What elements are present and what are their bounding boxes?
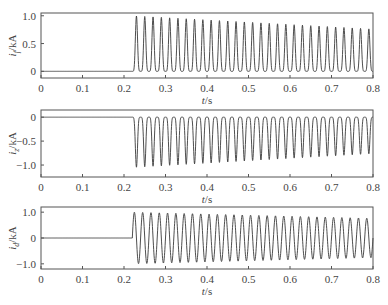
x-tick-label: 0.6: [283, 273, 297, 285]
waveform-line: [41, 212, 373, 263]
x-tick-label: 0.8: [366, 181, 380, 193]
x-tick-label: 0.5: [242, 181, 256, 193]
y-tick-label: 0: [31, 232, 37, 244]
x-tick-label: 0: [38, 273, 44, 285]
x-tick-label: 0.2: [117, 181, 131, 193]
x-tick-label: 0.1: [76, 273, 90, 285]
y-tick-label: 0.5: [22, 38, 36, 50]
x-tick-label: 0: [38, 82, 44, 94]
subplot-i_d: 00.10.20.30.40.50.60.70.81.00−1.0t/sid/k…: [6, 206, 380, 297]
y-tick-label: −1.0: [16, 159, 36, 171]
x-tick-label: 0.2: [117, 273, 131, 285]
x-tick-label: 0.5: [242, 82, 256, 94]
x-tick-label: 0.5: [242, 273, 256, 285]
x-tick-label: 0.4: [200, 273, 214, 285]
subplot-i_f: 00.10.20.30.40.50.60.70.800.51.0t/sif/kA: [6, 10, 380, 106]
x-tick-label: 0.3: [159, 181, 173, 193]
figure-current-waveforms: 00.10.20.30.40.50.60.70.800.51.0t/sif/kA…: [0, 0, 388, 305]
x-tick-label: 0.3: [159, 82, 173, 94]
y-tick-label: 0: [31, 111, 37, 123]
plot-frame: [41, 110, 373, 177]
y-tick-label: 1.0: [22, 10, 36, 22]
x-tick-label: 0.3: [159, 273, 173, 285]
y-axis-label: if/kA: [6, 35, 21, 57]
x-tick-label: 0.2: [117, 82, 131, 94]
plot-frame: [41, 13, 373, 78]
x-tick-label: 0.7: [325, 181, 339, 193]
x-tick-label: 0.1: [76, 82, 90, 94]
x-axis-label: t/s: [202, 193, 212, 205]
x-tick-label: 0.6: [283, 82, 297, 94]
x-axis-label: t/s: [202, 94, 212, 106]
waveform-line: [41, 117, 373, 167]
y-tick-label: −0.5: [16, 135, 36, 147]
x-tick-label: 0.7: [325, 82, 339, 94]
waveform-line: [41, 16, 373, 71]
x-tick-label: 0.1: [76, 181, 90, 193]
subplot-i_z: 00.10.20.30.40.50.60.70.80−0.5−1.0t/siz/…: [6, 110, 380, 205]
y-tick-label: 1.0: [22, 206, 36, 218]
x-tick-label: 0.6: [283, 181, 297, 193]
x-tick-label: 0.8: [366, 273, 380, 285]
x-tick-label: 0: [38, 181, 44, 193]
x-axis-label: t/s: [202, 285, 212, 297]
x-tick-label: 0.8: [366, 82, 380, 94]
x-tick-label: 0.7: [325, 273, 339, 285]
y-tick-label: −1.0: [16, 258, 36, 270]
y-tick-label: 0: [31, 65, 37, 77]
y-axis-label: id/kA: [6, 226, 21, 250]
x-tick-label: 0.4: [200, 181, 214, 193]
x-tick-label: 0.4: [200, 82, 214, 94]
